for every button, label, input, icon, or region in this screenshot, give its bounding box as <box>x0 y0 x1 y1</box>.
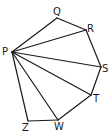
edge-tw <box>58 95 91 120</box>
polygon-diagram: P Q R S T W Z <box>0 0 110 132</box>
vertex-label-z: Z <box>22 122 29 132</box>
vertex-label-w: W <box>54 121 64 132</box>
edge-pw <box>12 52 58 120</box>
vertex-label-s: S <box>102 63 108 74</box>
vertex-label-r: R <box>87 23 94 34</box>
vertex-label-t: T <box>92 93 100 104</box>
edge-st <box>91 67 101 95</box>
edge-zp <box>12 52 28 121</box>
vertex-labels: P Q R S T W Z <box>2 6 108 132</box>
edge-rs <box>86 30 101 67</box>
edge-qr <box>57 18 86 30</box>
edge-pq <box>12 18 57 52</box>
vertex-label-q: Q <box>53 6 61 17</box>
edge-pr <box>12 30 86 52</box>
vertex-label-p: P <box>2 46 8 57</box>
